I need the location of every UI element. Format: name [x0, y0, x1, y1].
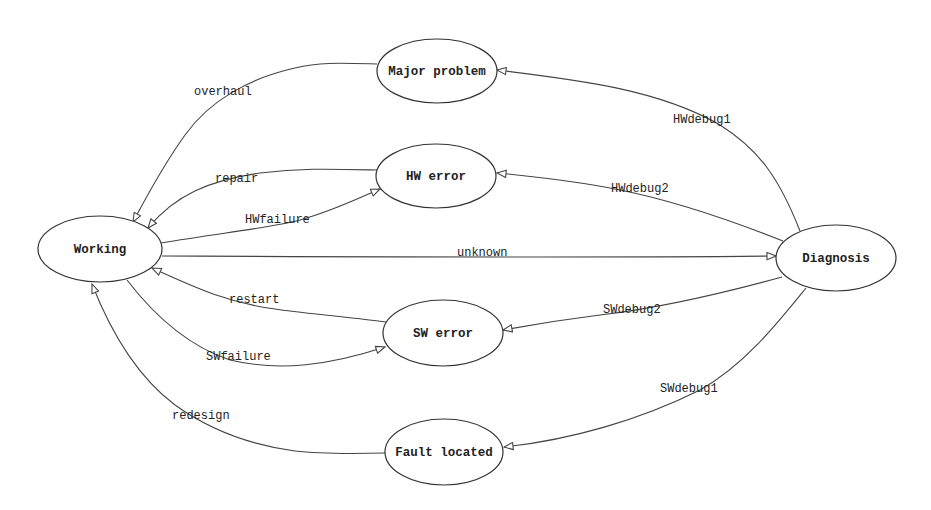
edge-label-hwdebug1: HWdebug1	[673, 113, 731, 127]
node-label-sw-error: SW error	[413, 327, 473, 341]
edge-unknown: unknown	[162, 246, 776, 260]
edge-label-overhaul: overhaul	[194, 85, 252, 99]
edge-redesign: redesign	[92, 284, 385, 454]
edge-hwdebug2: HWdebug2	[497, 173, 783, 241]
edge-label-hwfailure: HWfailure	[245, 213, 310, 227]
node-label-working: Working	[74, 243, 127, 257]
node-label-fault-located: Fault located	[395, 446, 493, 460]
node-sw-error[interactable]: SW error	[383, 300, 503, 366]
node-hw-error[interactable]: HW error	[376, 144, 496, 208]
edge-label-swdebug1: SWdebug1	[660, 382, 718, 396]
edge-label-hwdebug2: HWdebug2	[611, 182, 669, 196]
node-diagnosis[interactable]: Diagnosis	[776, 225, 896, 291]
edge-label-restart: restart	[229, 293, 279, 307]
node-label-major-problem: Major problem	[388, 65, 486, 79]
edge-overhaul: overhaul	[133, 63, 377, 222]
edge-label-unknown: unknown	[457, 246, 507, 260]
edge-swdebug2: SWdebug2	[503, 277, 782, 330]
node-fault-located[interactable]: Fault located	[385, 419, 503, 485]
edge-hwdebug1: HWdebug1	[497, 70, 800, 231]
node-major-problem[interactable]: Major problem	[377, 39, 497, 103]
edge-label-repair: repair	[215, 172, 258, 186]
edge-restart: restart	[152, 268, 386, 322]
node-label-diagnosis: Diagnosis	[802, 252, 870, 266]
edge-hwfailure: HWfailure	[161, 189, 380, 243]
edge-label-swdebug2: SWdebug2	[603, 303, 661, 317]
state-diagram: overhaul repair HWfailure unknown restar…	[0, 0, 931, 510]
edge-label-redesign: redesign	[172, 409, 230, 423]
node-working[interactable]: Working	[38, 216, 162, 282]
edge-label-swfailure: SWfailure	[206, 350, 271, 364]
node-label-hw-error: HW error	[406, 170, 466, 184]
